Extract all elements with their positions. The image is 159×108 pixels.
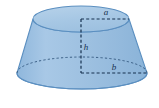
frustum-figure: a h b: [0, 0, 159, 108]
frustum-diagram: a h b: [0, 0, 159, 108]
label-bottom-radius-b: b: [112, 62, 117, 72]
label-height-h: h: [84, 42, 89, 52]
label-top-radius-a: a: [104, 7, 109, 17]
